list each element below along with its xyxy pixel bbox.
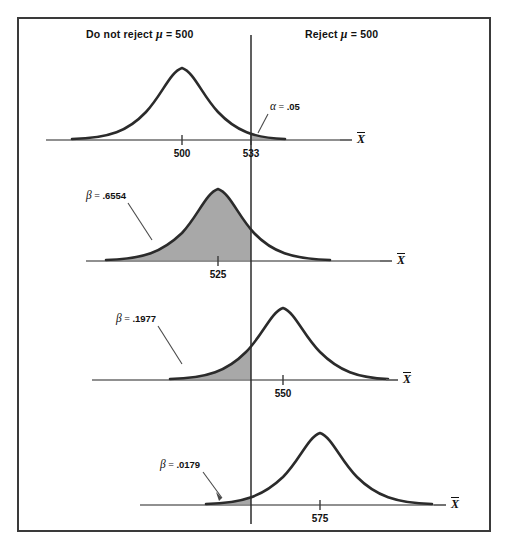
- distributions-svg: [0, 0, 506, 550]
- beta-value-550: .1977: [132, 313, 156, 324]
- beta-annotation-575: β = .0179: [160, 458, 200, 470]
- tick-label-575: 575: [300, 513, 340, 524]
- beta-value-525: .6554: [102, 190, 126, 201]
- beta-equals-550: =: [124, 313, 130, 324]
- alpha-annotation: α = .05: [270, 100, 300, 112]
- axis-label-xbar-4: X: [451, 497, 459, 512]
- leader-lines: [128, 114, 268, 501]
- tick-label-525: 525: [198, 269, 238, 280]
- xbar-text-2: X: [397, 253, 405, 267]
- tick-label-533: 533: [231, 148, 271, 159]
- leader-line-alpha: [258, 114, 268, 133]
- curve-mean-575: [206, 433, 432, 504]
- beta-shade-region-550: [170, 308, 388, 379]
- beta-shade-region-575: [206, 433, 432, 504]
- axis-end-stubs: [340, 140, 446, 505]
- beta-equals-525: =: [94, 190, 100, 201]
- axis-label-xbar-3: X: [403, 372, 411, 387]
- axis-label-xbar-2: X: [397, 253, 405, 268]
- curve-mean-500: [72, 68, 285, 139]
- alpha-symbol: α: [270, 100, 276, 112]
- curves: [72, 68, 432, 504]
- beta-equals-575: =: [168, 459, 174, 470]
- beta-symbol-525: β: [86, 189, 92, 201]
- beta-shade-region-525: [106, 189, 330, 260]
- figure-stage: Do not reject μ = 500 Reject μ = 500: [0, 0, 506, 550]
- alpha-value: .05: [287, 101, 300, 112]
- leader-line-beta-575: [203, 472, 222, 498]
- xbar-text-4: X: [451, 497, 459, 511]
- beta-value-575: .0179: [176, 459, 200, 470]
- alpha-shade-region: [72, 68, 285, 139]
- leader-line-beta-525: [128, 203, 152, 240]
- xbar-text-1: X: [357, 132, 365, 146]
- beta-symbol-575: β: [160, 458, 166, 470]
- curve-mean-550: [170, 308, 388, 379]
- tick-label-500: 500: [162, 148, 202, 159]
- axis-label-xbar-1: X: [357, 132, 365, 147]
- tick-label-550: 550: [263, 388, 303, 399]
- beta-annotation-525: β = .6554: [86, 189, 126, 201]
- xbar-text-3: X: [403, 372, 411, 386]
- beta-annotation-550: β = .1977: [116, 312, 156, 324]
- leader-line-beta-550: [158, 326, 182, 364]
- alpha-equals: =: [279, 101, 285, 112]
- beta-symbol-550: β: [116, 312, 122, 324]
